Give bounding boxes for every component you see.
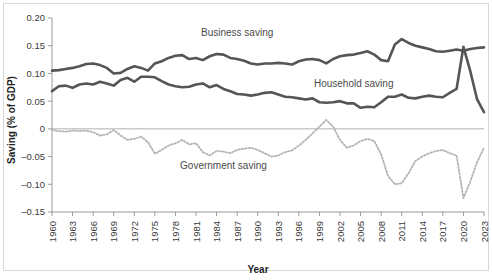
y-tick-label: –0.10 [21,179,45,190]
y-axis-title: Saving (% of GDP) [6,76,17,164]
x-tick-label: 2017 [437,221,448,242]
series-label-government-saving: Government saving [180,160,267,171]
y-tick-label: –0.15 [21,206,45,217]
series-label-business-saving: Business saving [201,27,273,38]
x-tick-label: 2014 [417,221,428,242]
y-tick-labels: –0.15–0.10–0.0500.050.100.150.20 [21,12,45,217]
x-tick-label: 1984 [211,221,222,242]
saving-line-chart: –0.15–0.10–0.0500.050.100.150.20 1960196… [0,0,492,280]
x-tick-label: 1972 [129,221,140,242]
series-line-business-saving [52,39,484,73]
x-axis [52,212,484,216]
figure-container: –0.15–0.10–0.0500.050.100.150.20 1960196… [0,0,492,280]
y-tick-label: 0 [40,123,45,134]
series-line-household-saving [52,47,484,112]
x-tick-label: 1969 [108,221,119,242]
y-tick-label: –0.05 [21,151,45,162]
x-tick-labels: 1960196319661969197219751978198119841987… [47,221,490,242]
x-axis-title: Year [247,264,268,275]
x-tick-label: 2008 [376,221,387,242]
x-tick-label: 1996 [293,221,304,242]
x-tick-label: 1993 [273,221,284,242]
x-tick-label: 2011 [396,221,407,241]
x-tick-label: 1960 [47,221,58,242]
series-annotations: Business savingHousehold savingGovernmen… [180,27,393,171]
x-tick-label: 1963 [67,221,78,242]
x-tick-label: 1999 [314,221,325,242]
x-tick-label: 2020 [458,221,469,242]
y-tick-label: 0.20 [27,12,46,23]
x-tick-label: 1990 [252,221,263,242]
x-tick-label: 2002 [335,221,346,242]
x-tick-label: 1981 [191,221,202,242]
x-tick-label: 2023 [479,221,490,242]
series-lines [52,39,484,198]
y-tick-label: 0.15 [27,40,46,51]
series-line-government-saving [52,120,484,198]
x-tick-label: 1978 [170,221,181,242]
x-tick-label: 1987 [232,221,243,242]
y-axis [48,18,52,212]
x-tick-label: 1975 [149,221,160,242]
x-tick-label: 1966 [88,221,99,242]
x-tick-label: 2005 [355,221,366,242]
y-tick-label: 0.10 [27,68,46,79]
y-tick-label: 0.05 [27,96,46,107]
series-label-household-saving: Household saving [314,78,394,89]
